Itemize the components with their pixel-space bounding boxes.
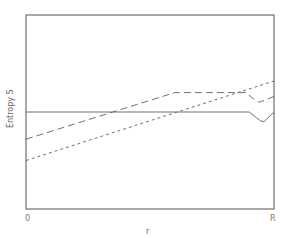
series-group: [26, 81, 274, 161]
y-axis-label: Entropy S: [6, 89, 15, 128]
chart-canvas: [0, 0, 288, 238]
series-line-solid: [26, 112, 274, 122]
series-line-short-dash: [26, 81, 274, 161]
series-line-long-dash: [26, 93, 274, 140]
x-axis-label: r: [146, 227, 149, 236]
x-tick-zero: 0: [25, 214, 30, 223]
x-tick-r-max: R: [270, 214, 276, 223]
